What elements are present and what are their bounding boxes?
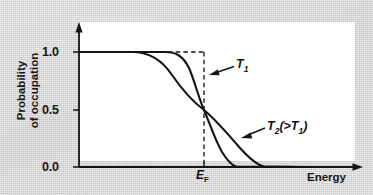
t1-leader-arrow — [209, 67, 234, 76]
x-axis-title: Energy — [307, 171, 346, 183]
curve-label-t2-symbol: T — [267, 119, 275, 133]
y-tick-label-1: 1.0 — [42, 45, 59, 59]
figure-container: 1.0 0.5 0.0 Probability of occupation En… — [0, 0, 373, 195]
x-axis — [79, 163, 363, 170]
curve-label-t2-comparator: (>T — [279, 119, 298, 133]
y-tick-label-2: 0.5 — [42, 103, 59, 117]
reference-lines-dashed — [168, 52, 204, 163]
y-tick-label-3: 0.0 — [42, 160, 59, 174]
curve-t2 — [80, 52, 310, 167]
curve-label-t2: T2(>T1) — [267, 119, 307, 136]
y-axis — [75, 22, 82, 167]
fermi-energy-symbol: E — [196, 168, 204, 182]
fermi-energy-label: EF — [196, 168, 209, 184]
curve-label-t1: T1 — [236, 57, 248, 74]
fermi-energy-subscript: F — [204, 175, 209, 184]
curve-label-t1-symbol: T — [236, 57, 244, 71]
y-axis-title: Probability of occupation — [15, 31, 40, 151]
t2-leader-arrow — [241, 128, 265, 139]
curve-label-t1-subscript: 1 — [244, 64, 249, 74]
curve-label-t2-close-paren: ) — [303, 119, 307, 133]
curve-t1 — [80, 52, 300, 167]
